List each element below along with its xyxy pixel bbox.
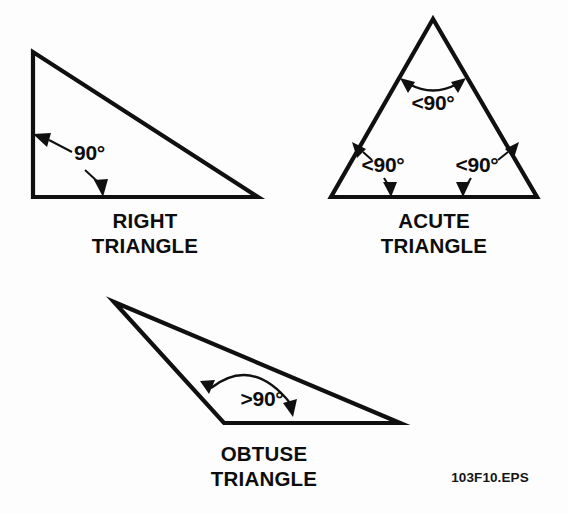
acute-top-angle-label: <90° [412,91,455,114]
figure-id-label: 103F10.EPS [451,470,529,485]
acute-triangle-caption-line1: ACUTE [398,209,470,232]
triangle-types-figure: 90° RIGHT TRIANGLE <90° <90° <90° ACUT [0,0,568,513]
acute-triangle-caption-line2: TRIANGLE [381,234,487,257]
obtuse-angle-label: >90° [241,387,284,410]
obtuse-triangle-caption-line2: TRIANGLE [211,467,317,490]
right-triangle-caption-line2: TRIANGLE [92,234,198,257]
right-triangle-caption-line1: RIGHT [113,209,178,232]
figure-canvas: 90° RIGHT TRIANGLE <90° <90° <90° ACUT [0,0,568,513]
obtuse-triangle-caption-line1: OBTUSE [221,442,308,465]
acute-bottom-left-angle-label: <90° [362,153,405,176]
right-angle-label: 90° [74,141,105,164]
acute-bottom-right-angle-label: <90° [456,153,499,176]
